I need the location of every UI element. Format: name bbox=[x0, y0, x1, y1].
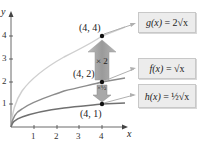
x-tick-4: 4 bbox=[99, 131, 104, 141]
scale-down-label: ×½ bbox=[97, 84, 106, 92]
curve-h bbox=[11, 103, 125, 127]
y-tick-1: 1 bbox=[2, 98, 7, 108]
arrowhead-g-icon bbox=[130, 23, 136, 27]
y-axis-label: y bbox=[1, 6, 5, 17]
legend-h-rhs: = ½√x bbox=[163, 91, 189, 102]
point-4-1 bbox=[100, 102, 104, 106]
x-tick-2: 2 bbox=[54, 131, 59, 141]
y-tick-2: 2 bbox=[2, 76, 7, 86]
scale-up-label: × 2 bbox=[96, 56, 108, 66]
point-label-4-4: (4, 4) bbox=[79, 22, 101, 33]
point-4-4 bbox=[100, 34, 104, 38]
curve-f bbox=[11, 78, 125, 127]
axes bbox=[9, 11, 129, 130]
y-tick-3: 3 bbox=[2, 53, 7, 63]
x-tick-1: 1 bbox=[31, 131, 36, 141]
point-label-4-2: (4, 2) bbox=[73, 68, 95, 79]
legend-g-rhs: = 2√x bbox=[164, 17, 188, 28]
legend-f-rhs: = √x bbox=[166, 63, 185, 74]
legend-h: h(x) = ½√x bbox=[138, 84, 196, 108]
y-tick-4: 4 bbox=[2, 30, 7, 40]
legend-f-name: f(x) bbox=[149, 63, 163, 74]
y-axis-arrow-icon bbox=[9, 11, 14, 17]
x-tick-3: 3 bbox=[76, 131, 81, 141]
x-axis-label: x bbox=[127, 128, 131, 139]
arrowhead-h-icon bbox=[130, 93, 136, 97]
legend-g-name: g(x) bbox=[146, 17, 162, 28]
point-label-4-1: (4, 1) bbox=[80, 108, 102, 119]
arrowhead-f-icon bbox=[130, 67, 136, 71]
legend-h-name: h(x) bbox=[145, 91, 161, 102]
legend-f: f(x) = √x bbox=[138, 58, 196, 79]
legend-g: g(x) = 2√x bbox=[138, 12, 196, 33]
